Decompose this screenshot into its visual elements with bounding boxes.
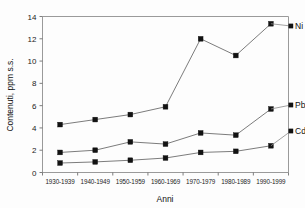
legend-marker-cd	[289, 129, 293, 133]
series-label-cd: Cd	[295, 126, 305, 136]
series-label-ni: Ni	[295, 21, 303, 31]
legend-marker-ni	[289, 24, 293, 28]
data-point-ni-3	[163, 104, 168, 109]
y-tick-label: 10	[28, 57, 37, 66]
x-axis-category-labels: 1930-19391940-19491950-19591960-19691970…	[45, 178, 286, 185]
y-tick-label: 2	[32, 146, 37, 155]
y-tick-label: 14	[28, 13, 37, 22]
y-axis-title: Contenuti, ppm s.s.	[5, 58, 15, 131]
data-point-pb-1	[93, 148, 98, 153]
leader-line-pb	[271, 105, 291, 109]
series-label-group: NiPbCd	[271, 21, 305, 146]
data-point-ni-1	[93, 117, 98, 122]
y-tick-label: 8	[32, 79, 37, 88]
series-line-ni	[60, 24, 271, 125]
data-point-pb-5	[233, 133, 238, 138]
leader-line-cd	[271, 131, 291, 146]
y-axis-ticks: 02468101214	[28, 13, 43, 178]
chart-canvas: 02468101214 1930-19391940-19491950-19591…	[0, 0, 305, 208]
x-tick-label: 1950-1959	[116, 178, 146, 185]
data-point-pb-2	[128, 139, 133, 144]
x-tick-label: 1980-1989	[221, 178, 251, 185]
data-series-group	[58, 21, 274, 165]
data-point-cd-5	[233, 149, 238, 154]
x-axis-title: Anni	[156, 194, 173, 204]
data-point-cd-4	[198, 150, 203, 155]
series-label-pb: Pb	[295, 100, 305, 110]
y-tick-label: 12	[28, 35, 37, 44]
data-point-pb-0	[58, 150, 63, 155]
y-tick-label: 0	[32, 169, 37, 178]
legend-marker-pb	[289, 103, 293, 107]
leader-line-ni	[271, 24, 291, 26]
data-point-cd-0	[58, 161, 63, 166]
data-point-cd-1	[93, 160, 98, 165]
x-tick-label: 1960-1969	[151, 178, 181, 185]
y-tick-label: 6	[32, 102, 37, 111]
data-point-ni-2	[128, 112, 133, 117]
data-point-ni-0	[58, 122, 63, 127]
data-point-cd-2	[128, 158, 133, 163]
x-tick-label: 1970-1979	[186, 178, 216, 185]
data-point-ni-5	[233, 53, 238, 58]
line-chart: 02468101214 1930-19391940-19491950-19591…	[0, 0, 305, 208]
data-point-ni-4	[198, 36, 203, 41]
y-tick-label: 4	[32, 124, 37, 133]
x-tick-label: 1930-1939	[45, 178, 75, 185]
data-point-pb-4	[198, 131, 203, 136]
data-point-pb-3	[163, 142, 168, 147]
x-tick-label: 1940-1949	[81, 178, 111, 185]
x-tick-label: 1990-1999	[256, 178, 286, 185]
data-point-cd-3	[163, 156, 168, 161]
